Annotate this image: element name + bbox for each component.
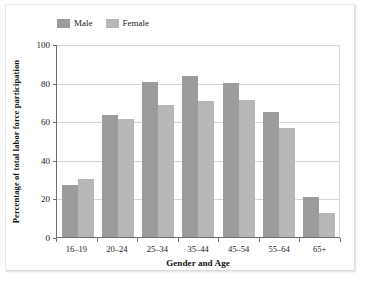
y-axis-label: 40	[41, 156, 50, 166]
x-axis-tick	[340, 238, 341, 242]
y-axis-label: 20	[41, 194, 50, 204]
x-axis-tick	[178, 238, 179, 242]
x-axis-label: 35–44	[187, 244, 208, 258]
bar-male-20-24	[102, 115, 118, 237]
x-axis-label: 65+	[313, 244, 326, 258]
x-axis-label: 55–64	[269, 244, 290, 258]
chart-legend: Male Female	[57, 17, 149, 30]
x-axis-tick	[299, 238, 300, 242]
x-axis-cell: 55–64	[259, 238, 300, 258]
legend-swatch-male	[57, 19, 70, 28]
plot-frame-right	[339, 45, 340, 237]
bar-female-65+	[319, 213, 335, 237]
y-axis-label: 80	[41, 79, 50, 89]
legend-swatch-female	[106, 19, 119, 28]
x-axis-tick	[137, 238, 138, 242]
y-axis-label: 60	[41, 117, 50, 127]
bar-group	[178, 45, 218, 237]
x-axis-label: 20–24	[106, 244, 127, 258]
bar-group	[219, 45, 259, 237]
bar-groups	[58, 45, 339, 237]
x-axis-tick	[56, 238, 57, 242]
x-axis-cell: 35–44	[178, 238, 219, 258]
bar-female-35-44	[198, 101, 214, 237]
x-axis-tick	[97, 238, 98, 242]
bar-group	[259, 45, 299, 237]
x-axis-cell: 45–54	[218, 238, 259, 258]
legend-label-male: Male	[74, 19, 93, 28]
bar-male-65+	[303, 197, 319, 237]
y-axis-tick	[53, 84, 57, 85]
y-axis-tick	[53, 122, 57, 123]
y-axis-tick	[53, 161, 57, 162]
y-axis-label: 100	[37, 40, 51, 50]
y-axis-label: 0	[46, 233, 51, 243]
bar-female-16-19	[78, 179, 94, 237]
x-axis-tick	[218, 238, 219, 242]
plot-area: 020406080100	[56, 45, 340, 238]
bar-group	[98, 45, 138, 237]
x-axis-cell: 25–34	[137, 238, 178, 258]
x-axis-title: Gender and Age	[56, 258, 340, 268]
bar-male-35-44	[182, 76, 198, 237]
bar-group	[299, 45, 339, 237]
bar-female-55-64	[279, 128, 295, 237]
x-axis-label: 45–54	[228, 244, 249, 258]
bar-male-16-19	[62, 185, 78, 237]
bar-female-25-34	[158, 105, 174, 237]
bar-female-45-54	[239, 100, 255, 237]
chart-figure: Male Female Percentage of total labor fo…	[0, 0, 365, 282]
bar-male-25-34	[142, 82, 158, 237]
legend-item-male: Male	[57, 19, 93, 28]
x-axis-tick	[259, 238, 260, 242]
y-axis-tick	[53, 45, 57, 46]
x-axis-cell: 16–19	[56, 238, 97, 258]
y-axis-tick	[53, 199, 57, 200]
legend-label-female: Female	[123, 19, 150, 28]
bar-group	[58, 45, 98, 237]
bar-group	[138, 45, 178, 237]
legend-item-female: Female	[106, 19, 150, 28]
x-axis-label: 25–34	[147, 244, 168, 258]
bar-male-45-54	[223, 83, 239, 237]
y-axis-title: Percentage of total labor force particip…	[10, 45, 22, 238]
bar-male-55-64	[263, 112, 279, 237]
x-axis-cell: 65+	[299, 238, 340, 258]
x-axis: 16–1920–2425–3435–4445–5455–6465+	[56, 238, 340, 258]
x-axis-cell: 20–24	[97, 238, 138, 258]
bar-female-20-24	[118, 119, 134, 237]
x-axis-label: 16–19	[66, 244, 87, 258]
